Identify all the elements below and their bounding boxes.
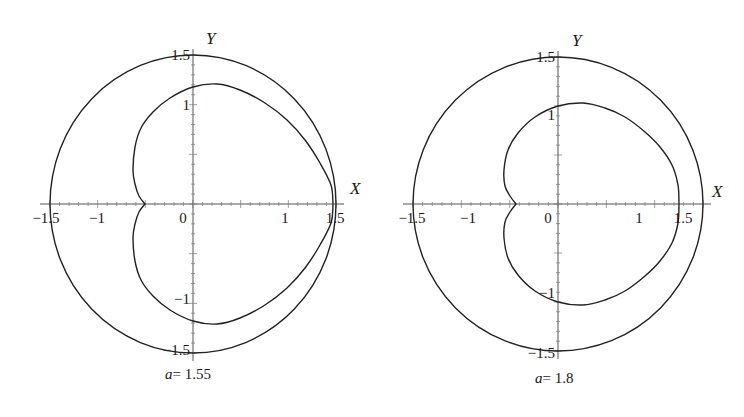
y-tick-label-right: 1.5 bbox=[536, 49, 555, 65]
caption-right: a= 1.8 bbox=[535, 370, 573, 387]
caption-left: a= 1.55 bbox=[165, 366, 211, 383]
y-axis-label-right: Y bbox=[572, 31, 583, 50]
x-tick-label-left: −1 bbox=[89, 210, 105, 226]
caption-left-var: a bbox=[165, 366, 173, 382]
x-tick-label-left: 1 bbox=[281, 210, 289, 226]
x-tick-label-right: −1 bbox=[460, 210, 476, 226]
caption-right-var: a bbox=[535, 370, 543, 386]
y-tick-label-left: 1 bbox=[183, 97, 191, 113]
caption-right-value: = 1.8 bbox=[543, 370, 574, 386]
x-axis-label-left: X bbox=[349, 179, 361, 198]
y-axis-label-left: Y bbox=[206, 29, 217, 48]
caption-left-value: = 1.55 bbox=[173, 366, 211, 382]
y-tick-label-right: −1.5 bbox=[528, 345, 555, 361]
y-tick-label-left: −1.5 bbox=[163, 342, 190, 358]
x-tick-label-left: 0 bbox=[179, 210, 187, 226]
y-tick-label-left: 1.5 bbox=[171, 47, 190, 63]
y-tick-label-left: −1 bbox=[174, 291, 190, 307]
y-tick-label-right: 1 bbox=[548, 107, 556, 123]
x-tick-label-left: −1.5 bbox=[32, 210, 59, 226]
x-tick-label-right: −1.5 bbox=[398, 210, 425, 226]
x-axis-label-right: X bbox=[711, 182, 723, 201]
figure-canvas: −1.5−1011.51.51−1−1.5XY−1.5−1011.51.51−1… bbox=[0, 0, 744, 417]
y-tick-label-right: −1 bbox=[539, 285, 555, 301]
x-tick-label-right: 1.5 bbox=[674, 210, 693, 226]
x-tick-label-right: 1 bbox=[635, 210, 643, 226]
x-tick-label-left: 1.5 bbox=[326, 210, 345, 226]
x-tick-label-right: 0 bbox=[544, 210, 552, 226]
